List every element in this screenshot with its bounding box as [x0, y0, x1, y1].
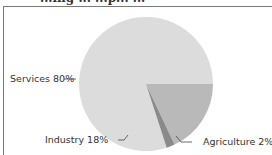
pie-slices: [79, 17, 213, 151]
industry-label: Industry 18%: [45, 134, 108, 145]
agriculture-label: Agriculture 2%: [203, 136, 272, 147]
services-label: Services 80%: [10, 73, 74, 84]
